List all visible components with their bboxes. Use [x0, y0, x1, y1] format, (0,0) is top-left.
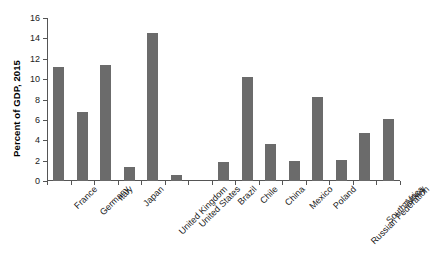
y-tick-label: 12	[30, 54, 40, 64]
x-axis-label: Mexico	[307, 184, 334, 211]
bar	[359, 133, 370, 181]
bar	[336, 160, 347, 181]
chart-title-cropped	[0, 0, 414, 4]
y-tick-label: 14	[30, 33, 40, 43]
x-axis-label: Japan	[142, 184, 166, 208]
bar-series	[47, 18, 400, 181]
y-tick-label: 8	[35, 95, 40, 105]
y-tick-label: 16	[30, 13, 40, 23]
bar	[383, 119, 394, 181]
y-tick-label: 0	[35, 176, 40, 186]
bar	[147, 33, 158, 181]
y-axis-title: Percent of GDP, 2015	[11, 39, 22, 179]
bar	[171, 175, 182, 181]
x-axis-label: France	[72, 184, 99, 211]
x-tick-mark	[400, 181, 401, 185]
bar	[77, 112, 88, 181]
x-axis-label: Chile	[258, 184, 280, 206]
bar	[242, 77, 253, 181]
plot-area: 0246810121416	[47, 18, 400, 181]
y-tick-label: 6	[35, 115, 40, 125]
bar	[265, 144, 276, 181]
bar	[289, 161, 300, 181]
x-axis-labels: FranceGermanyItalyJapanUnited KingdomUni…	[47, 184, 400, 276]
bar	[218, 162, 229, 181]
y-tick-label: 10	[30, 74, 40, 84]
y-tick-label: 4	[35, 135, 40, 145]
x-axis-label: China	[282, 184, 306, 208]
bar	[53, 67, 64, 181]
bar	[124, 167, 135, 181]
bar	[312, 97, 323, 181]
x-axis-label: Poland	[331, 184, 358, 211]
bar	[100, 65, 111, 181]
y-tick-label: 2	[35, 156, 40, 166]
